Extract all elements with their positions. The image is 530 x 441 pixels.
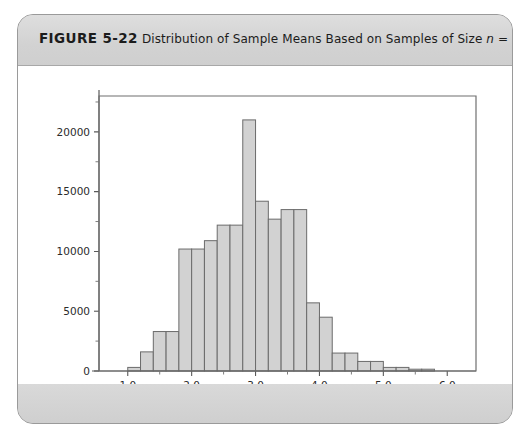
histogram-bar bbox=[179, 249, 192, 371]
histogram-bar bbox=[243, 120, 256, 371]
histogram-svg: 050001000015000200001.02.03.04.05.06.0 bbox=[18, 66, 513, 386]
y-tick-label: 15000 bbox=[57, 185, 90, 197]
y-tick-label: 0 bbox=[83, 365, 90, 377]
histogram-bar bbox=[256, 201, 269, 371]
histogram-bar bbox=[230, 225, 243, 371]
figure-caption-text-1: Distribution of Sample Means Based on Sa… bbox=[142, 32, 486, 46]
histogram-bar bbox=[153, 332, 166, 371]
histogram-chart: 050001000015000200001.02.03.04.05.06.0 bbox=[18, 66, 513, 386]
figure-card: FIGURE 5-22 Distribution of Sample Means… bbox=[17, 14, 513, 424]
histogram-bar bbox=[141, 352, 154, 371]
histogram-bar bbox=[204, 241, 217, 371]
y-tick-label: 20000 bbox=[57, 126, 90, 138]
histogram-bar bbox=[294, 210, 307, 371]
histogram-bar bbox=[281, 210, 294, 371]
y-tick-label: 10000 bbox=[57, 245, 90, 257]
figure-number: FIGURE 5-22 bbox=[39, 30, 138, 46]
histogram-bar bbox=[192, 249, 205, 371]
histogram-bar bbox=[166, 332, 179, 371]
y-tick-label: 5000 bbox=[63, 305, 90, 317]
histogram-bar bbox=[371, 361, 384, 371]
histogram-bar bbox=[345, 353, 358, 371]
histogram-bar bbox=[332, 353, 345, 371]
histogram-bar bbox=[358, 361, 371, 371]
plot-panel: 050001000015000200001.02.03.04.05.06.0 bbox=[18, 65, 512, 385]
histogram-bar bbox=[319, 317, 332, 371]
histogram-bar bbox=[268, 219, 281, 371]
figure-caption-variable: n bbox=[486, 32, 494, 46]
figure-caption: FIGURE 5-22 Distribution of Sample Means… bbox=[39, 30, 513, 46]
figure-caption-text-2: = 10 bbox=[494, 32, 513, 46]
figure-caption-band: FIGURE 5-22 Distribution of Sample Means… bbox=[18, 15, 512, 65]
figure-footer-band bbox=[18, 384, 512, 423]
histogram-bar bbox=[307, 303, 320, 371]
histogram-bars-group bbox=[128, 120, 435, 371]
histogram-bar bbox=[217, 225, 230, 371]
